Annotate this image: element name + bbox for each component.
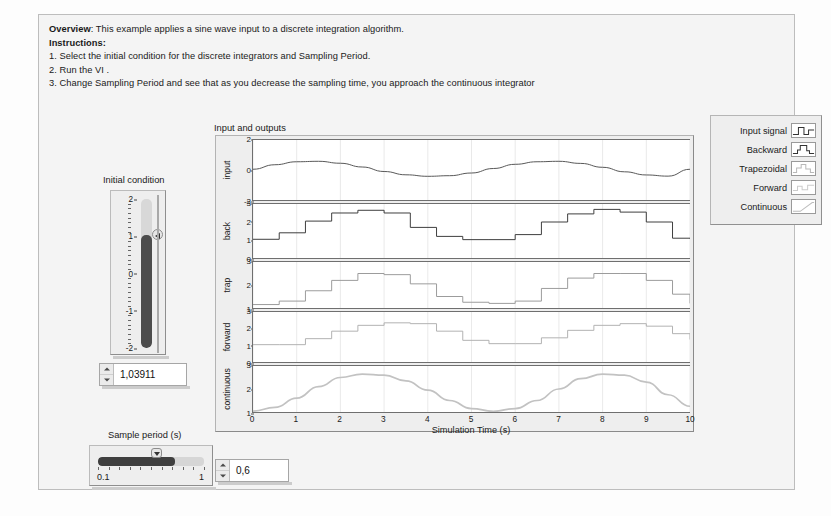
subplot-ylabel-text: forward xyxy=(222,323,232,352)
xtick-label: 1 xyxy=(293,414,298,424)
legend-item[interactable]: Input signal xyxy=(715,121,816,140)
instruction-step: 3. Change Sampling Period and see that a… xyxy=(49,77,679,91)
chart-panel[interactable]: input20-2back3210trap321forward3210conti… xyxy=(215,135,694,432)
sample-period-numeric-input[interactable]: 0,6 xyxy=(215,459,289,482)
slider-shadow xyxy=(113,356,169,359)
legend-item[interactable]: Forward xyxy=(715,178,816,197)
subplot-ylabel: input xyxy=(219,139,235,201)
subplot-plot-area[interactable] xyxy=(252,203,690,259)
ramp-plot-icon[interactable] xyxy=(791,199,816,214)
xtick-label: 6 xyxy=(512,414,517,424)
plot-legend[interactable]: Input signalBackwardTrapezoidalForwardCo… xyxy=(710,115,822,225)
chart-caption: Input and outputs xyxy=(214,123,286,133)
xtick-label: 8 xyxy=(600,414,605,424)
xtick-label: 0 xyxy=(250,414,255,424)
ytick-label: 0 xyxy=(247,166,251,175)
subplot-plot-area[interactable] xyxy=(252,139,690,201)
legend-item-label: Backward xyxy=(747,145,787,155)
ytick-label: 3 xyxy=(247,307,251,316)
initial-condition-track[interactable] xyxy=(141,199,152,348)
legend-item-label: Input signal xyxy=(740,126,787,136)
subplot-plot-area[interactable] xyxy=(252,365,690,413)
subplot-ylabel-text: back xyxy=(222,222,232,240)
ytick-label: 2 xyxy=(247,281,251,290)
xtick-label: 10 xyxy=(685,414,694,424)
sample-period-thumb[interactable] xyxy=(151,448,162,458)
legend-item[interactable]: Continuous xyxy=(715,197,816,216)
subplot-ylabel-text: continuous xyxy=(222,368,232,410)
xaxis-title: Simulation Time (s) xyxy=(252,425,690,435)
subplot-ylabel: forward xyxy=(219,311,235,363)
legend-item-label: Trapezoidal xyxy=(739,164,787,174)
sample-period-value[interactable]: 0,6 xyxy=(230,460,288,481)
decrement-arrow-icon[interactable] xyxy=(216,471,229,481)
decrement-arrow-icon[interactable] xyxy=(100,375,113,385)
xtick-label: 4 xyxy=(425,414,430,424)
initial-condition-minor-ticks xyxy=(128,199,132,348)
sample-period-label: Sample period (s) xyxy=(108,430,181,440)
sample-period-track[interactable] xyxy=(98,457,204,466)
step-plot-icon[interactable] xyxy=(791,161,816,176)
subplot: input20-2 xyxy=(219,139,690,201)
instructions-block: Overview: This example applies a sine wa… xyxy=(49,23,679,91)
subplot-ylabel: back xyxy=(219,203,235,259)
initial-condition-value[interactable]: 1,03911 xyxy=(114,364,186,385)
vi-front-panel: Overview: This example applies a sine wa… xyxy=(38,14,795,490)
legend-item-label: Continuous xyxy=(741,202,787,212)
legend-item[interactable]: Backward xyxy=(715,140,816,159)
initial-condition-numeric-input[interactable]: 1,03911 xyxy=(99,363,187,386)
ytick-label: 2 xyxy=(247,324,251,333)
ytick-label: 3 xyxy=(247,361,251,370)
initial-condition-fill xyxy=(141,235,152,348)
increment-arrow-icon[interactable] xyxy=(100,364,113,375)
ytick-label: 3 xyxy=(247,199,251,208)
sample-period-min-label: 0.1 xyxy=(97,472,110,482)
step-plot-icon[interactable] xyxy=(791,142,816,157)
subplot-ytick-labels: 321 xyxy=(235,261,252,309)
instruction-step: 1. Select the initial condition for the … xyxy=(49,50,679,64)
xtick-label: 3 xyxy=(381,414,386,424)
subplot: forward3210 xyxy=(219,311,690,363)
sample-period-minor-ticks xyxy=(98,467,204,472)
legend-item-label: Forward xyxy=(753,183,787,193)
ytick-label: 2 xyxy=(247,385,251,394)
subplot-ylabel: continuous xyxy=(219,365,235,413)
plot-stack: input20-2back3210trap321forward3210conti… xyxy=(219,139,690,428)
ytick-label: 1 xyxy=(247,341,251,350)
step-plot-icon[interactable] xyxy=(791,180,816,195)
xtick-label: 2 xyxy=(337,414,342,424)
subplot-ytick-labels: 3210 xyxy=(235,311,252,363)
slider-shadow xyxy=(92,487,216,490)
numeric-shadow xyxy=(218,482,292,485)
subplot-plot-area[interactable] xyxy=(252,311,690,363)
subplot-ylabel: trap xyxy=(219,261,235,309)
numeric-shadow xyxy=(102,386,190,389)
overview-text: : This example applies a sine wave input… xyxy=(91,24,404,34)
increment-arrow-icon[interactable] xyxy=(216,460,229,471)
subplot: trap321 xyxy=(219,261,690,309)
xaxis-tick-labels: 012345678910 xyxy=(252,413,690,425)
sample-period-stepper[interactable] xyxy=(216,460,230,481)
subplot-ytick-labels: 20-2 xyxy=(235,139,252,201)
subplot: back3210 xyxy=(219,203,690,259)
overview-line: Overview: This example applies a sine wa… xyxy=(49,23,679,37)
subplot-ytick-labels: 321 xyxy=(235,365,252,413)
initial-condition-label: Initial condition xyxy=(103,175,165,185)
xtick-label: 7 xyxy=(556,414,561,424)
subplot-plot-area[interactable] xyxy=(252,261,690,309)
sample-period-max-label: 1 xyxy=(199,472,204,482)
subplot-ytick-labels: 3210 xyxy=(235,203,252,259)
step-plot-icon[interactable] xyxy=(791,123,816,138)
initial-condition-slider[interactable]: 210-1-2 xyxy=(110,190,166,355)
sample-period-slider[interactable]: 0.1 1 xyxy=(89,445,213,486)
initial-condition-stepper[interactable] xyxy=(100,364,114,385)
sample-period-fill xyxy=(98,457,175,466)
screenshot-root: Overview: This example applies a sine wa… xyxy=(0,0,831,516)
xtick-label: 9 xyxy=(644,414,649,424)
subplot-ylabel-text: input xyxy=(222,161,232,180)
ytick-label: 2 xyxy=(247,217,251,226)
subplot: continuous321 xyxy=(219,365,690,413)
instructions-label: Instructions: xyxy=(49,37,679,51)
xaxis: 012345678910Simulation Time (s) xyxy=(219,413,690,439)
legend-item[interactable]: Trapezoidal xyxy=(715,159,816,178)
